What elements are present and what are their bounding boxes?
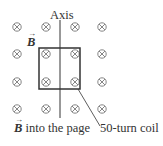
field-into-page-icon xyxy=(71,78,79,86)
field-into-page-icon xyxy=(13,50,21,58)
field-direction-caption: →B into the page xyxy=(14,122,90,135)
field-into-page-icon xyxy=(42,105,50,113)
field-into-page-icon xyxy=(98,105,106,113)
field-into-page-icon xyxy=(13,105,21,113)
axis-label: Axis xyxy=(50,9,74,22)
field-into-page-icon xyxy=(71,23,79,31)
field-into-page-icon xyxy=(42,50,50,58)
field-into-page-icon xyxy=(98,23,106,31)
field-vector-label: →B xyxy=(27,36,35,49)
field-into-page-icon xyxy=(42,78,50,86)
field-into-page-icon xyxy=(13,78,21,86)
field-into-page-icon xyxy=(71,105,79,113)
field-into-page-icon xyxy=(71,50,79,58)
field-into-page-icon xyxy=(42,23,50,31)
field-into-page-icon xyxy=(98,78,106,86)
field-into-page-icon xyxy=(98,50,106,58)
field-into-page-icon xyxy=(13,23,21,31)
coil-label: 50-turn coil xyxy=(100,122,159,135)
